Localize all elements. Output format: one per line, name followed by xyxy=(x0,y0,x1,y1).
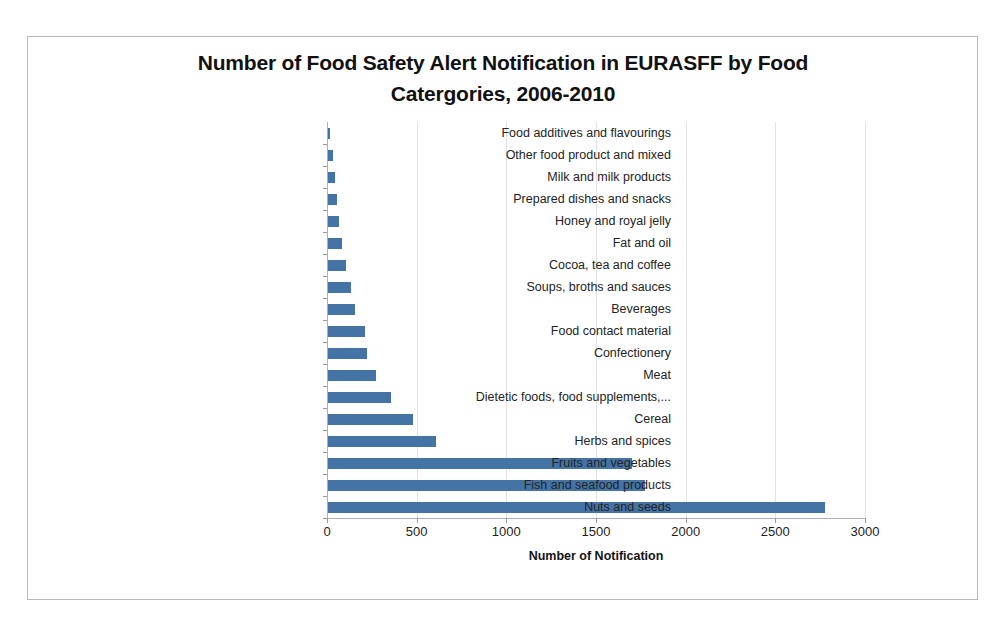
chart-frame: Number of Food Safety Alert Notification… xyxy=(27,36,978,600)
category-label: Other food product and mixed xyxy=(421,149,671,162)
bar[interactable] xyxy=(328,436,436,447)
value-axis-title: Number of Notification xyxy=(327,549,865,563)
value-axis-tick-labels: 050010001500200025003000 xyxy=(327,524,865,542)
category-label: Herbs and spices xyxy=(421,435,671,448)
category-label: Confectionery xyxy=(421,347,671,360)
value-axis-line xyxy=(327,122,328,518)
bar[interactable] xyxy=(328,348,367,359)
category-label: Honey and royal jelly xyxy=(421,215,671,228)
category-label: Soups, broths and sauces xyxy=(421,281,671,294)
value-tick-mark-2000 xyxy=(686,518,687,523)
value-tick-mark-0 xyxy=(327,518,328,523)
bar[interactable] xyxy=(328,128,330,139)
value-tick-label-500: 500 xyxy=(406,524,428,539)
value-tick-label-2000: 2000 xyxy=(671,524,700,539)
category-label: Fish and seafood products xyxy=(421,479,671,492)
value-tick-label-3000: 3000 xyxy=(851,524,880,539)
category-label: Food additives and flavourings xyxy=(421,127,671,140)
category-label: Fat and oil xyxy=(421,237,671,250)
bar[interactable] xyxy=(328,326,365,337)
category-label: Cocoa, tea and coffee xyxy=(421,259,671,272)
bar[interactable] xyxy=(328,216,339,227)
value-tick-mark-3000 xyxy=(865,518,866,523)
chart-title-line-2: Catergories, 2006-2010 xyxy=(88,78,918,109)
bar[interactable] xyxy=(328,150,333,161)
value-tick-label-0: 0 xyxy=(323,524,330,539)
gridline-3000 xyxy=(865,122,866,518)
category-label: Milk and milk products xyxy=(421,171,671,184)
bar[interactable] xyxy=(328,370,376,381)
category-label: Prepared dishes and snacks xyxy=(421,193,671,206)
chart-title-line-1: Number of Food Safety Alert Notification… xyxy=(88,47,918,78)
bar[interactable] xyxy=(328,414,413,425)
bar[interactable] xyxy=(328,260,346,271)
value-tick-label-1000: 1000 xyxy=(492,524,521,539)
value-tick-label-2500: 2500 xyxy=(761,524,790,539)
bar[interactable] xyxy=(328,282,351,293)
bar[interactable] xyxy=(328,392,391,403)
category-label: Nuts and seeds xyxy=(421,501,671,514)
bar[interactable] xyxy=(328,304,355,315)
value-tick-mark-1000 xyxy=(506,518,507,523)
bar[interactable] xyxy=(328,238,342,249)
category-label: Cereal xyxy=(421,413,671,426)
value-tick-mark-1500 xyxy=(596,518,597,523)
category-label: Beverages xyxy=(421,303,671,316)
bar[interactable] xyxy=(328,194,337,205)
category-label: Fruits and vegetables xyxy=(421,457,671,470)
category-label: Meat xyxy=(421,369,671,382)
bar[interactable] xyxy=(328,172,335,183)
value-tick-mark-500 xyxy=(417,518,418,523)
chart-title: Number of Food Safety Alert Notification… xyxy=(88,47,918,109)
category-label: Dietetic foods, food supplements,... xyxy=(421,391,671,404)
value-tick-label-1500: 1500 xyxy=(582,524,611,539)
category-label: Food contact material xyxy=(421,325,671,338)
value-tick-mark-2500 xyxy=(775,518,776,523)
